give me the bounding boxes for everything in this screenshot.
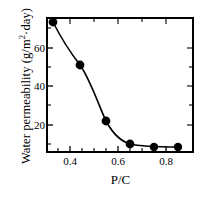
axes-frame: [47, 18, 193, 152]
data-point-6: [174, 143, 182, 151]
data-point-2: [76, 61, 85, 70]
data-point-5: [150, 143, 158, 151]
data-point-4: [126, 140, 135, 149]
chart-figure: Water permeability (g/m2·day) 60 40 20 0…: [0, 0, 207, 207]
plot-area: [0, 0, 207, 207]
data-point-1: [49, 18, 58, 27]
data-point-3: [102, 117, 111, 126]
